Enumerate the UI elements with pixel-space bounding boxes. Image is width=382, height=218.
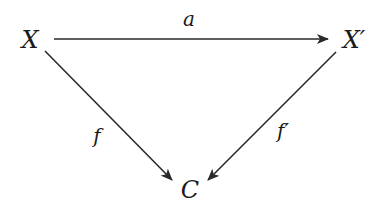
label-a: a: [183, 9, 195, 29]
node-c: C: [181, 178, 199, 202]
node-x: X: [21, 28, 38, 52]
node-x-prime: X′: [343, 28, 366, 52]
arrow-f-prime: [208, 52, 336, 180]
commutative-diagram: X X′ C a f f′: [0, 0, 382, 218]
arrow-f: [45, 51, 172, 180]
label-f: f: [93, 126, 100, 146]
label-f-prime: f′: [277, 121, 289, 141]
